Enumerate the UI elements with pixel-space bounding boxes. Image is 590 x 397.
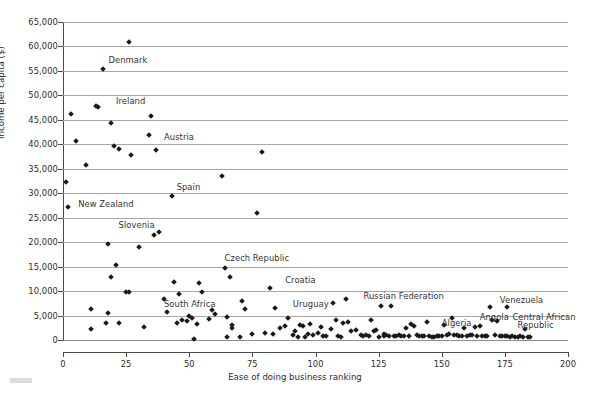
data-point <box>169 193 175 199</box>
x-tick <box>126 352 127 357</box>
data-point <box>108 274 114 280</box>
annotation-label: Denmark <box>108 55 147 65</box>
plot-area: DenmarkIrelandAustriaSpainNew ZealandSlo… <box>63 22 568 340</box>
x-tick-label: 0 <box>60 359 65 369</box>
data-point <box>328 326 334 332</box>
data-point <box>378 303 384 309</box>
data-point <box>146 132 152 138</box>
y-tick-label: 25,000 <box>28 213 58 223</box>
data-point <box>174 320 180 326</box>
gridline <box>63 120 568 121</box>
data-point <box>373 327 379 333</box>
data-point <box>136 244 142 250</box>
data-point <box>229 325 235 331</box>
annotation-label: Ireland <box>116 96 145 106</box>
x-tick <box>316 352 317 357</box>
x-axis-tick-labels: 0255075100125150175200 <box>63 352 568 372</box>
y-tick-label: 5,000 <box>34 311 58 321</box>
annotation-label: Uruguay <box>293 299 329 309</box>
gridline <box>63 291 568 292</box>
annotation-label: South Africa <box>164 299 216 309</box>
y-tick-label: 55,000 <box>28 66 58 76</box>
annotation-label: Czech Republic <box>225 253 289 263</box>
data-point <box>318 324 324 330</box>
data-point <box>199 289 205 295</box>
annotation-label: Spain <box>177 182 201 192</box>
data-point <box>300 323 306 329</box>
gridline <box>63 169 568 170</box>
data-point <box>164 309 170 315</box>
x-tick-label: 200 <box>560 359 576 369</box>
data-point <box>242 306 248 312</box>
data-point <box>103 321 109 327</box>
data-point <box>282 323 288 329</box>
data-point <box>141 324 147 330</box>
data-point <box>224 315 230 321</box>
x-tick-label: 125 <box>371 359 387 369</box>
gridline <box>63 193 568 194</box>
data-point <box>88 326 94 332</box>
data-point <box>338 334 344 340</box>
y-tick-label: 10,000 <box>28 286 58 296</box>
x-axis-title: Ease of doing business ranking <box>0 372 590 382</box>
data-point <box>308 322 314 328</box>
data-point <box>250 331 256 337</box>
x-tick <box>63 352 64 357</box>
data-point <box>272 305 278 311</box>
gridline <box>63 267 568 268</box>
data-point <box>116 321 122 327</box>
annotation-label: Republic <box>518 320 554 330</box>
data-point <box>330 300 336 306</box>
x-tick-label: 75 <box>247 359 258 369</box>
y-axis-title: Income per capita ($) <box>0 46 6 139</box>
data-point <box>424 319 430 325</box>
data-point <box>65 205 71 211</box>
data-point <box>149 114 155 120</box>
x-tick-label: 150 <box>434 359 450 369</box>
data-point <box>477 323 483 329</box>
x-tick <box>568 352 569 357</box>
data-point <box>333 317 339 323</box>
x-tick-label: 175 <box>497 359 513 369</box>
annotation-label: Algeria <box>442 318 472 328</box>
data-point <box>194 322 200 328</box>
data-point <box>126 39 132 45</box>
x-tick-label: 50 <box>184 359 195 369</box>
data-point <box>154 147 160 153</box>
gridline <box>63 218 568 219</box>
data-point <box>260 149 266 155</box>
y-axis-tick-labels: 05,00010,00015,00020,00025,00030,00035,0… <box>0 22 58 341</box>
data-point <box>68 112 74 118</box>
data-point <box>388 303 394 309</box>
y-tick-label: 60,000 <box>28 41 58 51</box>
data-point <box>343 297 349 303</box>
data-point <box>484 333 490 339</box>
gridline <box>63 22 568 23</box>
annotation-label: Venezuela <box>500 295 543 305</box>
x-tick-label: 25 <box>121 359 132 369</box>
data-point <box>487 304 493 310</box>
data-point <box>227 274 233 280</box>
data-point <box>262 330 268 336</box>
annotation-label: Austria <box>164 132 194 142</box>
x-tick <box>505 352 506 357</box>
data-point <box>295 334 301 340</box>
data-point <box>255 210 261 216</box>
annotation-label: New Zealand <box>78 199 134 209</box>
data-point <box>171 279 177 285</box>
y-tick-label: 45,000 <box>28 115 58 125</box>
annotation-label: Russian Federation <box>363 291 443 301</box>
x-tick <box>442 352 443 357</box>
y-tick-label: 35,000 <box>28 164 58 174</box>
x-tick <box>252 352 253 357</box>
data-point <box>222 265 228 271</box>
gridline <box>63 46 568 47</box>
chart-page: 05,00010,00015,00020,00025,00030,00035,0… <box>0 0 590 397</box>
data-point <box>411 323 417 329</box>
y-tick-label: 15,000 <box>28 262 58 272</box>
data-point <box>207 316 213 322</box>
data-point <box>63 179 69 185</box>
annotation-label: Angola <box>480 312 509 322</box>
data-point <box>285 316 291 322</box>
annotation-label: Slovenia <box>119 220 155 230</box>
